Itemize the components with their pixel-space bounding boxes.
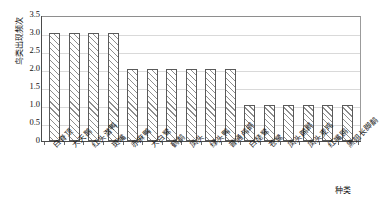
y-tick-label: 0	[36, 136, 40, 145]
bar[interactable]	[49, 33, 60, 141]
bar-slot	[201, 17, 221, 141]
bar-slot	[65, 17, 85, 141]
bar-slot	[221, 17, 241, 141]
y-tick-label: 2.0	[29, 64, 40, 73]
bar[interactable]	[69, 33, 80, 141]
x-axis-tick-labels: 白脊顶大天鹅红头潜鸭斑嘴赤麻鸭大白鹭鹤鹬凤头绿头鸭普通鸬鹚白琵鹭苍鹭凤头䴙䴘凤头…	[41, 144, 361, 196]
bar-slot	[123, 17, 143, 141]
bar-slot	[338, 17, 358, 141]
bar-slot	[45, 17, 65, 141]
y-tick-label: 2.5	[29, 46, 40, 55]
bar[interactable]	[186, 69, 197, 141]
bar[interactable]	[205, 69, 216, 141]
bar-slot	[84, 17, 104, 141]
bar-slot	[260, 17, 280, 141]
y-tick-label: 3.0	[29, 28, 40, 37]
y-axis-tick-labels: 3.53.02.52.01.51.00.50	[14, 14, 40, 142]
bar-slot	[143, 17, 163, 141]
bar[interactable]	[88, 33, 99, 141]
bar-slot	[279, 17, 299, 141]
y-tick-label: 3.5	[29, 10, 40, 19]
y-tick-label: 1.5	[29, 82, 40, 91]
bar-series	[42, 17, 360, 141]
x-axis-title: 种类	[335, 186, 351, 195]
plot-area	[41, 16, 361, 142]
y-axis-line	[41, 16, 42, 142]
y-tick-label: 1.0	[29, 100, 40, 109]
y-tick-label: 0.5	[29, 118, 40, 127]
bar-slot	[162, 17, 182, 141]
bar[interactable]	[127, 69, 138, 141]
bar-slot	[182, 17, 202, 141]
